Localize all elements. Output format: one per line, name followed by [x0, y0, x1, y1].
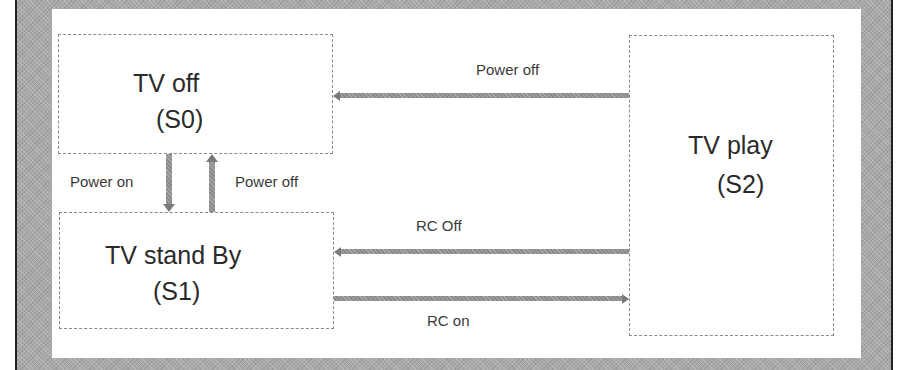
transition-s2-s1-label: RC Off	[416, 218, 462, 233]
state-s2-code: (S2)	[717, 172, 764, 197]
arrowhead-right-icon	[622, 294, 629, 304]
transition-s1-s2-label: RC on	[427, 313, 470, 328]
transition-s2-s1-line	[340, 249, 629, 254]
state-s0-code: (S0)	[156, 107, 203, 132]
transition-s2-s0-label: Power off	[476, 62, 539, 77]
state-s1-code: (S1)	[153, 279, 200, 304]
transition-s1-s0-line	[209, 162, 215, 212]
arrowhead-left-icon	[333, 91, 340, 101]
state-s2-name: TV play	[688, 133, 773, 158]
state-s0-name: TV off	[133, 71, 199, 96]
state-s2-box: TV play (S2)	[629, 35, 834, 336]
arrowhead-up-icon	[206, 154, 218, 162]
transition-s1-s0-label: Power off	[235, 174, 298, 189]
transition-s0-s1-line	[166, 154, 172, 204]
transition-s1-s2-line	[334, 296, 622, 301]
state-s0-box: TV off (S0)	[58, 34, 333, 154]
transition-s2-s0-line	[339, 93, 629, 98]
state-s1-box: TV stand By (S1)	[59, 212, 334, 329]
transition-s0-s1-label: Power on	[70, 174, 133, 189]
state-s1-name: TV stand By	[105, 243, 241, 268]
arrowhead-left-icon	[334, 247, 341, 257]
arrowhead-down-icon	[163, 204, 175, 212]
